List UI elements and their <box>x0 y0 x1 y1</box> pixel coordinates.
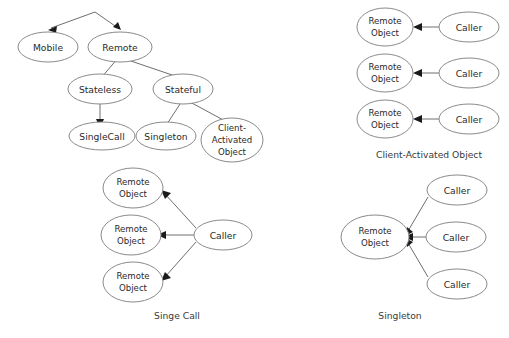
node-single-call-remote-object-2-shape <box>101 215 161 255</box>
node-stateless-label: Stateless <box>79 84 121 95</box>
client-activated-row: Remote Object Caller <box>357 100 499 138</box>
node-stateful[interactable]: Stateful <box>153 74 213 104</box>
node-stateless[interactable]: Stateless <box>68 74 132 104</box>
node-single-call-caller-label: Caller <box>210 230 237 241</box>
node-remote-object-1-label-line2: Object <box>371 28 400 38</box>
client-activated-object-diagram: Remote Object Caller Remote Object <box>357 8 499 160</box>
node-remote-object-2-label-line1: Remote <box>368 62 401 72</box>
node-singleton-caller-1[interactable]: Caller <box>427 175 487 205</box>
node-single-call-remote-object-3[interactable]: Remote Object <box>103 262 163 302</box>
node-single-call-remote-object-2[interactable]: Remote Object <box>101 215 161 255</box>
diagram-canvas: Mobile Remote Stateless Stateful SingleC… <box>0 0 509 338</box>
node-remote-object-2-shape <box>357 54 413 92</box>
node-caller-1-label: Caller <box>456 22 483 33</box>
edge-stateful-to-singleton <box>167 104 180 124</box>
client-activated-row: Remote Object Caller <box>357 8 499 46</box>
node-caller-3[interactable]: Caller <box>439 104 499 134</box>
arrowhead-remote <box>113 22 121 30</box>
node-remote-label: Remote <box>102 42 138 53</box>
node-singleton-label: Singleton <box>144 131 187 142</box>
node-single-call-remote-object-1-shape <box>103 168 163 208</box>
edge-apex-to-mobile <box>51 12 95 28</box>
node-remote-object-1[interactable]: Remote Object <box>357 8 413 46</box>
node-single-call-remote-object-3-shape <box>103 262 163 302</box>
arrowhead-remote-object-3 <box>413 115 422 123</box>
single-call-diagram: Remote Object Remote Object Remote Objec… <box>101 168 252 321</box>
caption-single-call: Singe Call <box>154 310 200 321</box>
node-remote-object-3-shape <box>357 100 413 138</box>
node-singleton-caller-3-label: Caller <box>444 279 471 290</box>
edge-caller-to-remote-object-bottom <box>165 242 196 277</box>
node-single-call-remote-object-1[interactable]: Remote Object <box>103 168 163 208</box>
node-remote-object-3[interactable]: Remote Object <box>357 100 413 138</box>
node-remote-object-2[interactable]: Remote Object <box>357 54 413 92</box>
edge-singleton-caller-1-to-remote-object <box>408 197 428 231</box>
node-stateful-label: Stateful <box>165 84 201 95</box>
node-singleton[interactable]: Singleton <box>136 122 196 150</box>
node-single-call-remote-object-1-label-line2: Object <box>119 189 148 199</box>
node-single-call-label: SingleCall <box>79 131 124 142</box>
node-single-call[interactable]: SingleCall <box>69 122 135 150</box>
node-singleton-remote-object-shape <box>341 215 409 259</box>
node-client-activated-object[interactable]: Client- Activated Object <box>201 118 263 162</box>
node-remote-object-1-shape <box>357 8 413 46</box>
taxonomy-tree-group: Mobile Remote Stateless Stateful SingleC… <box>18 12 263 162</box>
node-client-activated-object-label-line2: Activated <box>212 135 253 145</box>
arrowhead-remote-object-1 <box>413 23 422 31</box>
node-singleton-remote-object[interactable]: Remote Object <box>341 215 409 259</box>
node-singleton-caller-1-label: Caller <box>444 185 471 196</box>
node-remote-object-1-label-line1: Remote <box>368 16 401 26</box>
node-singleton-caller-2[interactable]: Caller <box>426 222 486 252</box>
node-remote[interactable]: Remote <box>88 32 152 62</box>
node-client-activated-object-label-line3: Object <box>218 147 247 157</box>
node-remote-object-2-label-line2: Object <box>371 74 400 84</box>
node-single-call-remote-object-2-label-line1: Remote <box>114 224 147 234</box>
node-single-call-remote-object-3-label-line2: Object <box>119 283 148 293</box>
node-singleton-caller-2-label: Caller <box>443 232 470 243</box>
node-single-call-remote-object-1-label-line1: Remote <box>116 177 149 187</box>
node-client-activated-object-label-line1: Client- <box>218 123 246 133</box>
node-caller-2-label: Caller <box>456 68 483 79</box>
arrowhead-remote-object-2 <box>413 69 422 77</box>
node-remote-object-3-label-line2: Object <box>371 120 400 130</box>
node-single-call-caller[interactable]: Caller <box>194 220 252 250</box>
node-single-call-remote-object-2-label-line2: Object <box>117 236 146 246</box>
node-caller-1[interactable]: Caller <box>439 12 499 42</box>
node-caller-2[interactable]: Caller <box>439 58 499 88</box>
caption-client-activated-object: Client-Activated Object <box>376 149 482 160</box>
node-caller-3-label: Caller <box>456 114 483 125</box>
client-activated-row: Remote Object Caller <box>357 54 499 92</box>
node-singleton-remote-object-label-line1: Remote <box>358 226 391 236</box>
node-singleton-remote-object-label-line2: Object <box>361 238 390 248</box>
singleton-diagram: Remote Object Caller Caller Caller Singl… <box>341 175 487 321</box>
node-single-call-remote-object-3-label-line1: Remote <box>116 271 149 281</box>
node-singleton-caller-3[interactable]: Caller <box>427 269 487 299</box>
node-mobile-label: Mobile <box>33 42 63 53</box>
edge-caller-to-remote-object-top <box>165 194 196 228</box>
node-remote-object-3-label-line1: Remote <box>368 108 401 118</box>
node-mobile[interactable]: Mobile <box>18 32 78 62</box>
caption-singleton: Singleton <box>378 310 421 321</box>
edge-singleton-caller-3-to-remote-object <box>408 243 428 277</box>
remoting-activation-models-diagram: Mobile Remote Stateless Stateful SingleC… <box>0 0 509 338</box>
